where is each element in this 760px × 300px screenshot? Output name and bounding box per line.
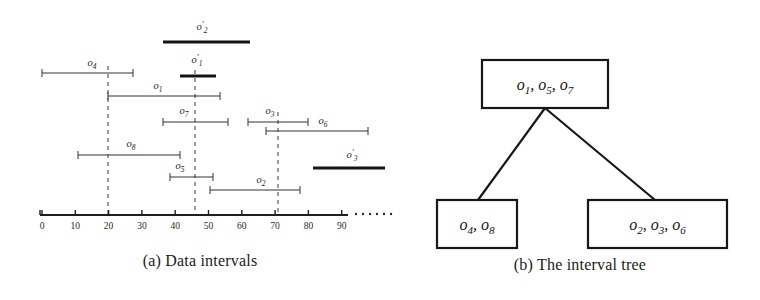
interval-o4: o4: [42, 57, 133, 77]
interval-label-o7: o7: [180, 105, 189, 119]
x-axis-tick-label-0: 0: [40, 221, 45, 231]
root-node[interactable]: o1, o5, o7: [482, 60, 608, 108]
interval-label-o4: o4: [88, 57, 97, 71]
interval-o8: o8: [78, 138, 180, 159]
interval-label-o1: o1: [154, 80, 163, 94]
axis-dot: [369, 213, 371, 215]
interval-o3p: o′3: [313, 147, 385, 168]
interval-label-o2: o2: [257, 174, 266, 188]
x-axis-tick-label-60: 60: [237, 221, 247, 231]
interval-o6: o6: [266, 115, 368, 135]
x-axis-tick-label-20: 20: [104, 221, 114, 231]
interval-o1p: o′1: [180, 52, 216, 76]
interval-label-o8: o8: [127, 138, 136, 152]
interval-o7: o7: [163, 105, 228, 126]
right-child-node[interactable]: o2, o3, o6: [588, 200, 727, 248]
x-axis-tick-label-70: 70: [270, 221, 280, 231]
axis-dot: [355, 213, 357, 215]
edge-root-to-left: [478, 108, 545, 200]
edge-root-to-right: [545, 108, 655, 200]
axis-dot: [362, 213, 364, 215]
x-axis-tick-label-80: 80: [304, 221, 314, 231]
interval-label-o2p: o′2: [197, 19, 208, 35]
interval-o5: o5: [170, 160, 213, 181]
left-child-node[interactable]: o4, o8: [437, 200, 517, 248]
x-axis-tick-label-40: 40: [170, 221, 180, 231]
interval-label-o1p: o′1: [192, 52, 203, 68]
panel-interval-tree: o1, o5, o7o4, o8o2, o3, o6 (b) The inter…: [400, 0, 760, 300]
x-axis-tick-label-10: 10: [71, 221, 81, 231]
interval-label-o3p: o′3: [347, 147, 358, 163]
interval-o2p: o′2: [163, 19, 250, 42]
axis-continuation-dots: [355, 213, 392, 215]
interval-label-o6: o6: [319, 115, 328, 129]
interval-tree-diagram: o1, o5, o7o4, o8o2, o3, o6: [400, 0, 760, 256]
x-axis-tick-label-50: 50: [204, 221, 214, 231]
panel-data-intervals: o′2o4o′1o1o7o3o6o8o′3o5o2010203040506070…: [0, 0, 400, 300]
axis-dot: [376, 213, 378, 215]
caption-panel-b: (b) The interval tree: [400, 256, 760, 274]
interval-o1: o1: [108, 80, 220, 100]
interval-label-o3: o3: [266, 105, 275, 119]
x-axis-tick-label-90: 90: [337, 221, 347, 231]
figure-root: o′2o4o′1o1o7o3o6o8o′3o5o2010203040506070…: [0, 0, 760, 300]
interval-o2: o2: [210, 174, 300, 194]
caption-panel-a: (a) Data intervals: [0, 252, 400, 270]
x-axis-tick-label-30: 30: [137, 221, 147, 231]
axis-dot: [383, 213, 385, 215]
data-intervals-plot: o′2o4o′1o1o7o3o6o8o′3o5o2010203040506070…: [0, 0, 400, 250]
interval-label-o5: o5: [176, 160, 185, 174]
axis-dot: [390, 213, 392, 215]
